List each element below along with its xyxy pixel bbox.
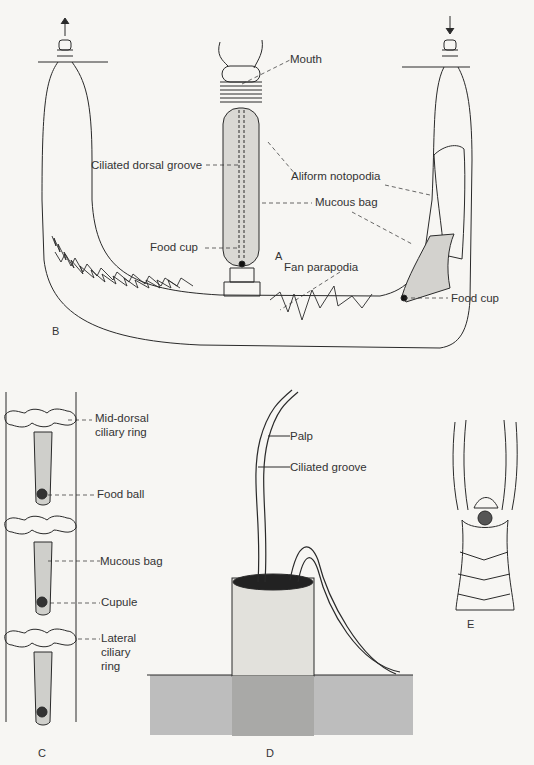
label-cupule: Cupule [101, 596, 137, 609]
worm-a [219, 40, 263, 296]
tube-d [147, 390, 413, 736]
panel-label-c: C [38, 747, 46, 759]
label-food-cup-b: Food cup [451, 292, 499, 305]
label-aliform-notopodia: Aliform notopodia [291, 170, 381, 183]
label-mouth: Mouth [290, 53, 322, 66]
flow-arrow-down-icon [446, 16, 454, 34]
label-mucous-bag: Mucous bag [315, 196, 378, 209]
label-fan-parapodia: Fan parapodia [284, 261, 358, 274]
diagram-artwork [0, 0, 534, 765]
label-food-cup-a: Food cup [150, 241, 198, 254]
panel-label-d: D [266, 747, 274, 759]
label-ciliary-ring: ciliary ring [95, 426, 147, 439]
panel-label-e: E [467, 618, 474, 630]
label-ciliated-groove: Ciliated groove [290, 461, 367, 474]
label-lateral: Lateral [101, 632, 136, 645]
worm-e [453, 420, 517, 610]
label-mucous-bag-c: Mucous bag [100, 555, 163, 568]
label-palp: Palp [290, 430, 313, 443]
label-mid-dorsal: Mid-dorsal [95, 412, 149, 425]
label-ciliary: ciliary [101, 646, 130, 659]
tube-c [5, 392, 76, 725]
label-food-ball: Food ball [97, 488, 144, 501]
panel-label-a: A [275, 250, 282, 262]
label-ring: ring [101, 660, 120, 673]
label-ciliated-dorsal-groove: Ciliated dorsal groove [91, 159, 202, 172]
flow-arrow-up-icon [61, 18, 69, 36]
panel-label-b: B [52, 325, 59, 337]
